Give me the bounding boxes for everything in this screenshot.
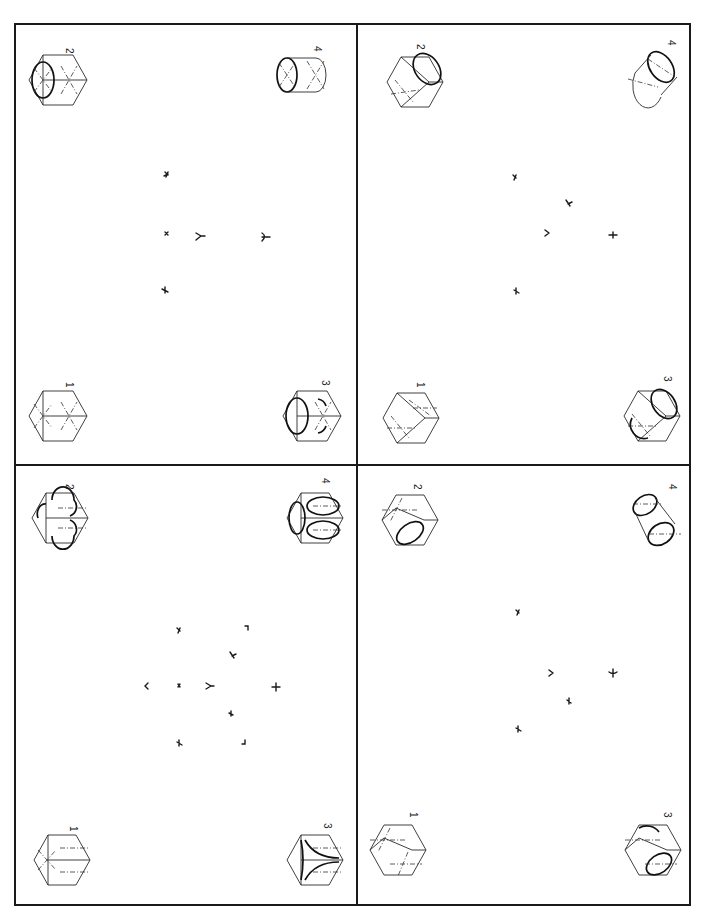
figure-1-cube (370, 825, 426, 876)
figure-3-cube-ellipse-arcs (283, 391, 341, 441)
panel-bottom-left: 2 4 1 (32, 478, 343, 885)
figure-label-1: 1 (408, 812, 419, 818)
figure-label-3: 3 (662, 376, 673, 382)
figure-2-cube-ellipse-side (382, 495, 438, 549)
figure-1-cube (29, 391, 87, 441)
figure-label-3: 3 (322, 823, 333, 829)
figure-label-1: 1 (68, 826, 79, 832)
figure-2-cube-arcs (32, 487, 88, 549)
drawing-sheet: 2 4 1 (0, 0, 706, 919)
registration-marks (513, 175, 617, 294)
figure-1-cube (34, 835, 90, 885)
registration-marks (162, 172, 270, 293)
figure-4-cylinder (277, 58, 326, 92)
figure-label-4: 4 (666, 40, 677, 46)
figure-label-4: 4 (320, 478, 331, 484)
figure-label-1: 1 (415, 382, 426, 388)
figure-4-cylinder (629, 490, 681, 550)
panel-top-left: 2 4 1 (29, 46, 341, 441)
registration-marks (516, 610, 617, 732)
figure-label-2: 2 (64, 48, 75, 54)
panel-bottom-right: 2 4 1 3 (370, 484, 681, 879)
figure-label-3: 3 (320, 380, 331, 386)
figure-label-1: 1 (64, 382, 75, 388)
figure-3-cube-quarter-arcs (287, 835, 343, 885)
figure-4-cube-three-ellipses (287, 493, 343, 543)
figure-3-cube-ellipse-arc (624, 385, 682, 441)
figure-label-4: 4 (312, 46, 323, 52)
panel-top-right: 2 4 1 3 (383, 40, 682, 443)
figure-label-4: 4 (667, 484, 678, 490)
registration-marks (145, 626, 280, 746)
figure-label-2: 2 (64, 484, 75, 490)
outer-frame (15, 24, 690, 905)
figure-4-cylinder (628, 47, 680, 108)
figure-2-cube-ellipse-top (387, 48, 447, 107)
figure-2-cube-ellipse (29, 55, 87, 105)
figure-3-cube-ellipse-arc (625, 825, 681, 879)
figure-label-3: 3 (662, 812, 673, 818)
figure-label-2: 2 (412, 484, 423, 490)
figure-1-cube (383, 393, 439, 443)
figure-label-2: 2 (415, 44, 426, 50)
